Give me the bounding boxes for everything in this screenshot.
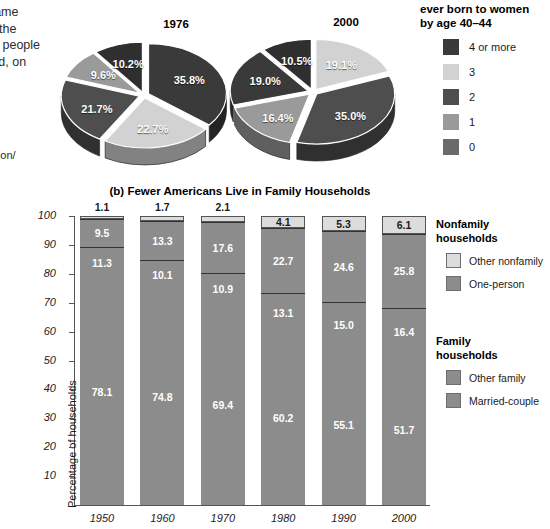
bar-column[interactable]: 74.810.113.31.71.71960 bbox=[140, 216, 184, 505]
bar-segment[interactable]: 13.3 bbox=[140, 221, 184, 259]
pie-slice-label: 21.7% bbox=[77, 103, 117, 115]
bar-segment[interactable]: 9.5 bbox=[80, 219, 124, 246]
pie-legend-item[interactable]: 1 bbox=[420, 114, 550, 130]
bar-segment[interactable]: 11.3 bbox=[80, 247, 124, 280]
bar-segment[interactable]: 10.9 bbox=[201, 273, 245, 305]
x-axis-label: 2000 bbox=[382, 512, 426, 524]
bar-chart-title: (b) Fewer Americans Live in Family House… bbox=[0, 185, 480, 197]
pie-slice-label: 22.7% bbox=[133, 123, 173, 135]
bar-column[interactable]: 55.115.024.65.31990 bbox=[322, 216, 366, 505]
bar-segment-value: 9.5 bbox=[80, 227, 124, 239]
pie-slice-label: 16.4% bbox=[258, 112, 298, 124]
y-tick bbox=[69, 476, 74, 477]
bar-segment[interactable]: 17.6 bbox=[201, 222, 245, 273]
pie-legend-title-line1: ever born to women bbox=[420, 2, 550, 16]
bar-legend-label: Other nonfamily bbox=[469, 255, 543, 267]
bar-segment[interactable]: 25.8 bbox=[382, 234, 426, 309]
bar-legend-group-title: Familyhouseholds bbox=[436, 335, 550, 362]
bar-legend-group-title-line1: Family bbox=[436, 335, 550, 349]
y-tick-label: 60 bbox=[16, 325, 56, 337]
bar-segment[interactable]: 1.7 bbox=[140, 216, 184, 221]
y-tick-label: 90 bbox=[16, 238, 56, 250]
pie-slice-label: 10.5% bbox=[277, 55, 317, 67]
pie-slice-label: 10.2% bbox=[108, 58, 148, 70]
bar-segment[interactable]: 24.6 bbox=[322, 231, 366, 302]
bar-segment[interactable]: 4.1 bbox=[261, 216, 305, 228]
bar-segment-value: 1.1 bbox=[80, 201, 124, 213]
bar-column[interactable]: 60.213.122.74.11980 bbox=[261, 216, 305, 505]
bar-segment-value: 51.7 bbox=[382, 424, 426, 436]
legend-swatch-icon bbox=[446, 393, 461, 408]
x-axis-label: 1980 bbox=[261, 512, 305, 524]
bar-segment-value: 5.3 bbox=[323, 218, 365, 230]
x-axis-line bbox=[74, 505, 430, 506]
bar-segment-value: 10.1 bbox=[140, 269, 184, 281]
bar-segment[interactable]: 5.3 bbox=[322, 216, 366, 231]
pie-legend-label: 2 bbox=[469, 91, 475, 103]
bar-segment[interactable]: 6.1 bbox=[382, 216, 426, 234]
bar-column[interactable]: 78.111.39.51.11.11950 bbox=[80, 216, 124, 505]
bar-segment[interactable]: 74.8 bbox=[140, 289, 184, 505]
pie-legend-item[interactable]: 4 or more bbox=[420, 39, 550, 55]
y-tick-label: 70 bbox=[16, 296, 56, 308]
bar-segment[interactable]: 22.7 bbox=[261, 228, 305, 294]
x-axis-label: 1950 bbox=[80, 512, 124, 524]
y-tick bbox=[69, 274, 74, 275]
bar-legend-item[interactable]: Other nonfamily bbox=[436, 253, 550, 268]
y-tick-label: 20 bbox=[16, 440, 56, 452]
bar-legend-group-title-line2: households bbox=[436, 232, 550, 246]
bar-legend-label: One-person bbox=[469, 278, 524, 290]
bar-column[interactable]: 69.410.917.62.12.11970 bbox=[201, 216, 245, 505]
bar-segment[interactable]: 78.1 bbox=[80, 279, 124, 505]
bar-segment[interactable]: 69.4 bbox=[201, 304, 245, 505]
pie-slice-label: 19.1% bbox=[321, 59, 361, 71]
bar-legend-item[interactable]: One-person bbox=[436, 276, 550, 291]
bar-segment[interactable]: 1.1 bbox=[80, 216, 124, 219]
bar-segment-value: 2.1 bbox=[201, 201, 245, 213]
y-tick bbox=[69, 216, 74, 217]
bar-segment-value: 17.6 bbox=[201, 242, 245, 254]
pie-legend-item[interactable]: 3 bbox=[420, 64, 550, 80]
pie-legend-item[interactable]: 0 bbox=[420, 139, 550, 155]
x-axis-label: 1990 bbox=[322, 512, 366, 524]
pie-legend-label: 0 bbox=[469, 141, 475, 153]
bar-segment-value: 22.7 bbox=[261, 255, 305, 267]
y-tick bbox=[69, 447, 74, 448]
bar-segment-value: 10.9 bbox=[201, 283, 245, 295]
pie-chart-legend: ever born to women by age 40–44 4 or mor… bbox=[420, 2, 550, 155]
bar-segment[interactable]: 51.7 bbox=[382, 356, 426, 505]
y-tick-label: 50 bbox=[16, 354, 56, 366]
bar-segment[interactable]: 13.1 bbox=[261, 293, 305, 331]
legend-swatch-icon bbox=[446, 370, 461, 385]
pie-slice-label: 35.0% bbox=[330, 110, 370, 122]
bar-segment-value: 74.8 bbox=[140, 391, 184, 403]
legend-swatch-icon bbox=[443, 64, 459, 80]
bar-legend-item[interactable]: Other family bbox=[436, 370, 550, 385]
bar-segment-value: 1.7 bbox=[140, 201, 184, 213]
bar-segment-value: 60.2 bbox=[261, 412, 305, 424]
bar-column[interactable]: 51.716.425.86.12000 bbox=[382, 216, 426, 505]
pie-slice-label: 35.8% bbox=[169, 74, 209, 86]
y-tick bbox=[69, 303, 74, 304]
bar-segment[interactable]: 15.0 bbox=[322, 302, 366, 345]
bar-segment[interactable]: 2.1 bbox=[201, 216, 245, 222]
pie-legend-item[interactable]: 2 bbox=[420, 89, 550, 105]
bar-chart-plot: Percentage of households 100908070605040… bbox=[74, 216, 430, 506]
bar-segment-value: 55.1 bbox=[322, 419, 366, 431]
bar-segment[interactable]: 55.1 bbox=[322, 346, 366, 505]
bar-segment-value: 11.3 bbox=[80, 257, 124, 269]
bar-segment[interactable]: 60.2 bbox=[261, 331, 305, 505]
bar-segment-value: 13.1 bbox=[261, 307, 305, 319]
bar-segment[interactable]: 16.4 bbox=[382, 308, 426, 355]
legend-swatch-icon bbox=[443, 139, 459, 155]
pie-legend-label: 3 bbox=[469, 66, 475, 78]
pie-slice-label: 19.0% bbox=[245, 75, 285, 87]
pie-legend-title-line2: by age 40–44 bbox=[420, 16, 550, 30]
legend-swatch-icon bbox=[446, 276, 461, 291]
figure-root: becamert of thenore peoplen had, onn. od… bbox=[0, 0, 550, 529]
x-axis-label: 1970 bbox=[201, 512, 245, 524]
bar-legend-item[interactable]: Married-couple bbox=[436, 393, 550, 408]
bar-segment[interactable]: 10.1 bbox=[140, 260, 184, 289]
bar-segment-value: 16.4 bbox=[382, 326, 426, 338]
y-tick-label: 80 bbox=[16, 267, 56, 279]
